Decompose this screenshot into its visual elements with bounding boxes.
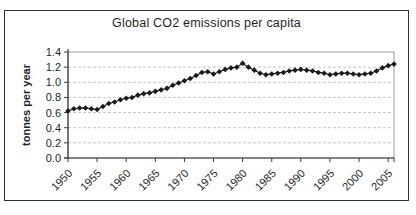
data-point bbox=[286, 68, 292, 74]
data-point bbox=[339, 70, 345, 76]
x-tick-label: 1995 bbox=[311, 167, 337, 193]
data-point bbox=[304, 67, 310, 73]
data-point bbox=[176, 80, 182, 86]
data-point bbox=[257, 70, 263, 76]
data-point bbox=[164, 86, 170, 92]
x-tick-label: 1960 bbox=[107, 167, 133, 193]
data-point bbox=[316, 70, 322, 76]
data-point bbox=[217, 69, 223, 75]
data-point bbox=[170, 83, 176, 89]
data-point bbox=[147, 90, 153, 96]
data-point bbox=[193, 73, 199, 79]
data-point bbox=[321, 70, 327, 76]
x-tick-label: 2005 bbox=[369, 167, 395, 193]
data-point bbox=[263, 72, 269, 78]
y-tick-label: 0.2 bbox=[46, 137, 61, 149]
data-point bbox=[123, 95, 129, 101]
data-point bbox=[94, 107, 100, 113]
data-point bbox=[310, 68, 316, 74]
y-tick-label: 1.2 bbox=[46, 61, 61, 73]
data-point bbox=[129, 95, 135, 101]
data-point bbox=[182, 78, 188, 84]
data-point bbox=[199, 70, 205, 76]
data-point bbox=[380, 65, 386, 71]
data-point bbox=[275, 70, 281, 76]
x-tick-label: 1975 bbox=[194, 167, 220, 193]
data-point bbox=[211, 71, 217, 77]
data-point bbox=[281, 70, 287, 76]
data-point bbox=[269, 71, 275, 77]
data-point bbox=[228, 65, 234, 71]
data-point bbox=[106, 101, 112, 107]
data-point bbox=[205, 69, 211, 75]
x-tick-label: 1990 bbox=[281, 167, 307, 193]
y-tick-label: 0.8 bbox=[46, 91, 61, 103]
x-tick-label: 1970 bbox=[165, 167, 191, 193]
y-tick-label: 1.4 bbox=[46, 46, 61, 58]
data-point bbox=[77, 105, 83, 111]
data-point bbox=[141, 91, 147, 97]
data-point bbox=[391, 61, 397, 67]
x-tick-label: 1950 bbox=[49, 167, 75, 193]
data-point bbox=[362, 71, 368, 77]
data-point bbox=[158, 87, 164, 93]
data-point bbox=[187, 76, 193, 82]
data-point bbox=[327, 72, 333, 78]
y-tick-label: 1.0 bbox=[46, 76, 61, 88]
data-point bbox=[153, 89, 159, 95]
data-point bbox=[112, 99, 118, 105]
plot-svg: 0.00.20.40.60.81.01.21.41950195519601965… bbox=[5, 11, 408, 200]
data-point bbox=[368, 70, 374, 76]
chart-frame: Global CO2 emissions per capita tonnes p… bbox=[4, 10, 409, 201]
data-point bbox=[374, 68, 380, 74]
x-tick-label: 1985 bbox=[252, 167, 278, 193]
data-point bbox=[100, 104, 106, 110]
data-point bbox=[88, 106, 94, 112]
data-point bbox=[345, 70, 351, 76]
data-point bbox=[350, 71, 356, 77]
data-point bbox=[251, 67, 257, 73]
x-tick-label: 2000 bbox=[340, 167, 366, 193]
x-tick-label: 1965 bbox=[136, 167, 162, 193]
data-point bbox=[292, 67, 298, 73]
x-tick-label: 1955 bbox=[78, 167, 104, 193]
data-point bbox=[71, 106, 77, 112]
screenshot-page: Global CO2 emissions per capita tonnes p… bbox=[0, 0, 416, 215]
data-point bbox=[356, 72, 362, 78]
x-tick-label: 1980 bbox=[223, 167, 249, 193]
y-tick-label: 0.0 bbox=[46, 152, 61, 164]
y-tick-label: 0.4 bbox=[46, 122, 61, 134]
y-tick-label: 0.6 bbox=[46, 107, 61, 119]
data-point-markers bbox=[65, 61, 397, 114]
data-point bbox=[83, 105, 89, 111]
data-point bbox=[333, 71, 339, 77]
